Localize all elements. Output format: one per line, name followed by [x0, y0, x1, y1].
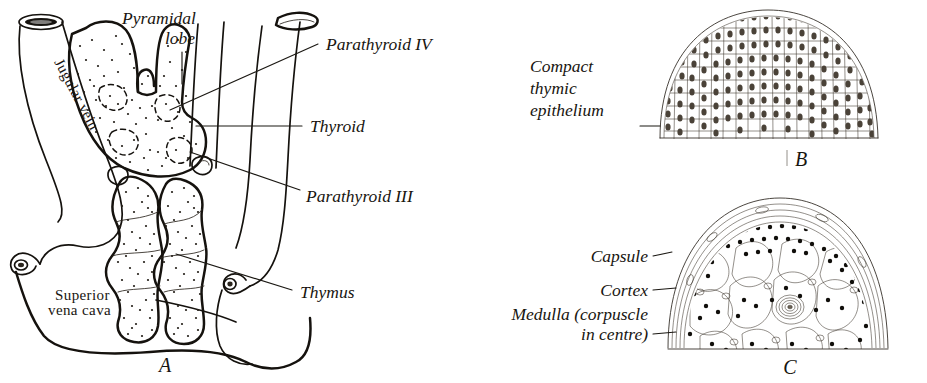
label-medulla-line1: Medulla (corpuscle [510, 304, 648, 324]
label-cortex: Cortex [600, 280, 648, 300]
label-medulla-line2: in centre) [581, 324, 648, 344]
anatomical-plate: Jugular vein Superior vena cava [0, 0, 927, 383]
label-compact-thymic-epithelium-line2: thymic [530, 78, 577, 98]
label-capsule: Capsule [591, 246, 649, 266]
label-pyramidal-lobe-line2: lobe [165, 28, 195, 48]
plate-canvas: Jugular vein Superior vena cava [0, 0, 927, 383]
label-superior-vena-cava-line2: vena cava [48, 302, 111, 318]
label-thyroid: Thyroid [310, 116, 365, 136]
label-parathyroid-iii: Parathyroid III [305, 186, 414, 206]
label-parathyroid-iv: Parathyroid IV [325, 34, 434, 54]
label-thymus: Thymus [300, 282, 355, 302]
panel-letter-c: C [783, 356, 797, 378]
label-pyramidal-lobe-line1: Pyramidal [121, 8, 196, 28]
label-compact-thymic-epithelium-line1: Compact [530, 56, 594, 76]
label-compact-thymic-epithelium-line3: epithelium [530, 100, 604, 120]
label-superior-vena-cava-line1: Superior [55, 287, 110, 303]
panel-letter-a: A [157, 354, 172, 376]
panel-letter-b: B [795, 148, 807, 170]
